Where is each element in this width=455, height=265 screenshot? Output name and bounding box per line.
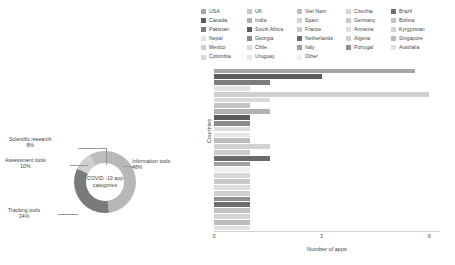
legend-item-usa[interactable]: USA bbox=[201, 7, 247, 16]
bar-czechia[interactable] bbox=[214, 173, 250, 178]
bar-france[interactable] bbox=[214, 150, 250, 155]
legend-swatch-icon bbox=[247, 45, 252, 50]
legend-item-georgia[interactable]: Georgia bbox=[247, 34, 297, 43]
legend-column: CzechiaGermanyArmeniaAlgeriaPortugal bbox=[346, 7, 391, 52]
bar-netherlands[interactable] bbox=[214, 156, 270, 161]
donut-center-line1: COVID -19 app bbox=[87, 175, 123, 182]
bar-mexico[interactable] bbox=[214, 92, 429, 97]
legend-swatch-icon bbox=[297, 27, 302, 32]
legend-item-algeria[interactable]: Algeria bbox=[346, 34, 391, 43]
legend-item-singapore[interactable]: Singapore bbox=[391, 34, 441, 43]
legend-item-netherlands[interactable]: Netherlands bbox=[297, 34, 346, 43]
legend-item-france[interactable]: France bbox=[297, 25, 346, 34]
bar-italy[interactable] bbox=[214, 162, 250, 167]
legend-item-nepal[interactable]: Nepal bbox=[201, 34, 247, 43]
donut-label-assessment-tools-text: Assessment tools bbox=[5, 157, 46, 163]
leader-line-scientific-research-h bbox=[78, 148, 106, 149]
bar-viet-nam[interactable] bbox=[214, 138, 250, 143]
bar-armenia[interactable] bbox=[214, 185, 250, 190]
legend-item-label: Bolivia bbox=[399, 18, 414, 24]
legend-item-colombia[interactable]: Colombia bbox=[201, 52, 247, 61]
legend-item-label: Colombia bbox=[209, 54, 231, 60]
legend-item-czechia[interactable]: Czechia bbox=[346, 7, 391, 16]
legend-item-brazil[interactable]: Brazil bbox=[391, 7, 441, 16]
leader-line-assessment-tools bbox=[70, 165, 88, 166]
x-axis-line bbox=[214, 231, 440, 232]
legend-swatch-icon bbox=[297, 55, 302, 60]
bar-pakistan[interactable] bbox=[214, 80, 270, 85]
bar-australia[interactable] bbox=[214, 226, 250, 231]
leader-line-tracking-tools bbox=[58, 214, 78, 215]
donut-label-tracking-tools-value: 34% bbox=[19, 213, 29, 219]
bar-colombia[interactable] bbox=[214, 98, 270, 103]
legend-item-label: Pakistan bbox=[209, 27, 229, 33]
bar-spain[interactable] bbox=[214, 144, 270, 149]
legend-item-label: Singapore bbox=[399, 36, 423, 42]
bar-georgia[interactable] bbox=[214, 121, 250, 126]
legend-item-other[interactable]: Other bbox=[297, 52, 346, 61]
legend-item-mexico[interactable]: Mexico bbox=[201, 43, 247, 52]
legend-item-australia[interactable]: Australia bbox=[391, 43, 441, 52]
bar-uk[interactable] bbox=[214, 103, 250, 108]
legend-swatch-icon bbox=[391, 9, 396, 14]
legend-item-uruguay[interactable]: Uruguay bbox=[247, 52, 297, 61]
bar-germany[interactable] bbox=[214, 179, 250, 184]
bar-usa[interactable] bbox=[214, 69, 415, 74]
legend-swatch-icon bbox=[346, 45, 351, 50]
bar-uruguay[interactable] bbox=[214, 133, 250, 138]
legend-swatch-icon bbox=[247, 27, 252, 32]
legend-item-canada[interactable]: Canada bbox=[201, 16, 247, 25]
legend-item-uk[interactable]: UK bbox=[247, 7, 297, 16]
donut-center-label: COVID -19 app categories bbox=[86, 163, 124, 201]
bar-chart-legend: USACanadaPakistanNepalMexicoColombiaUKIn… bbox=[201, 7, 453, 65]
bar-bolivia[interactable] bbox=[214, 208, 250, 213]
legend-item-spain[interactable]: Spain bbox=[297, 16, 346, 25]
donut-label-tracking-tools-text: Tracking tools bbox=[8, 207, 40, 213]
legend-item-italy[interactable]: Italy bbox=[297, 43, 346, 52]
leader-line-scientific-research-v bbox=[106, 148, 107, 165]
bar-brazil[interactable] bbox=[214, 202, 250, 207]
donut-label-tracking-tools: Tracking tools 34% bbox=[8, 207, 40, 220]
legend-item-label: Australia bbox=[399, 45, 419, 51]
bar-canada[interactable] bbox=[214, 74, 322, 79]
bar-portugal[interactable] bbox=[214, 197, 250, 202]
bar-nepal[interactable] bbox=[214, 86, 250, 91]
donut-label-scientific-research-text: Scientific research bbox=[9, 136, 51, 142]
legend-item-label: Canada bbox=[209, 18, 227, 24]
legend-item-india[interactable]: India bbox=[247, 16, 297, 25]
legend-item-germany[interactable]: Germany bbox=[346, 16, 391, 25]
legend-item-portugal[interactable]: Portugal bbox=[346, 43, 391, 52]
bar-india[interactable] bbox=[214, 109, 270, 114]
legend-item-viet-nam[interactable]: Viet Nam bbox=[297, 7, 346, 16]
donut-label-information-tools: Information tools 48% bbox=[132, 158, 170, 171]
bar-south-africa[interactable] bbox=[214, 115, 250, 120]
bar-algeria[interactable] bbox=[214, 191, 250, 196]
legend-item-label: Portugal bbox=[354, 45, 373, 51]
bar-kyrgyzstan[interactable] bbox=[214, 214, 250, 219]
donut-hole: COVID -19 app categories bbox=[86, 163, 124, 201]
bar-other[interactable] bbox=[214, 167, 250, 172]
donut-label-assessment-tools: Assessment tools 10% bbox=[5, 157, 46, 170]
legend-item-label: Kyrgyzstan bbox=[399, 27, 425, 33]
legend-item-label: France bbox=[305, 27, 321, 33]
legend-swatch-icon bbox=[391, 18, 396, 23]
x-axis-label: Number of apps bbox=[214, 246, 440, 252]
legend-item-armenia[interactable]: Armenia bbox=[346, 25, 391, 34]
bar-singapore[interactable] bbox=[214, 220, 250, 225]
donut-label-assessment-tools-value: 10% bbox=[20, 163, 30, 169]
legend-item-label: Netherlands bbox=[305, 36, 333, 42]
legend-swatch-icon bbox=[297, 18, 302, 23]
legend-item-chile[interactable]: Chile bbox=[247, 43, 297, 52]
donut-chart: COVID -19 app categories Scientific rese… bbox=[0, 125, 196, 265]
legend-item-south-africa[interactable]: South Africa bbox=[247, 25, 297, 34]
legend-item-label: Chile bbox=[255, 45, 267, 51]
legend-item-pakistan[interactable]: Pakistan bbox=[201, 25, 247, 34]
bar-chile[interactable] bbox=[214, 127, 250, 132]
legend-swatch-icon bbox=[247, 55, 252, 60]
legend-item-bolivia[interactable]: Bolivia bbox=[391, 16, 441, 25]
legend-swatch-icon bbox=[201, 18, 206, 23]
legend-item-kyrgyzstan[interactable]: Kyrgyzstan bbox=[391, 25, 441, 34]
legend-swatch-icon bbox=[346, 18, 351, 23]
legend-item-label: Spain bbox=[305, 18, 318, 24]
legend-swatch-icon bbox=[346, 27, 351, 32]
